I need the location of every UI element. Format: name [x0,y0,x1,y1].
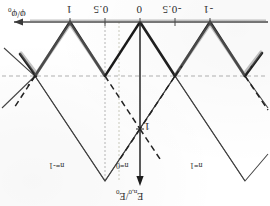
branch-n-zero-center [105,22,140,76]
energy-axis-label-sub2: 0 [116,188,120,196]
x-tick-label-minus-0p5: -0.5 [162,4,181,15]
y-tick-label-1: 1 [144,121,150,132]
vertical-guide-lines [105,22,119,182]
annotation-n-minus-1: n=-1 [49,161,64,169]
energy-axis [136,22,144,186]
x-tick-label-0p5: 0.5 [93,4,108,15]
annotation-n-zero: n=0 [116,161,129,169]
x-tick-label-1: 1 [66,4,72,15]
branch-n-zero-dashed [14,66,268,159]
chart-canvas [0,0,270,206]
flux-axis-label-text: φ/φ [12,9,26,20]
energy-axis-label-mid: /E [120,191,129,202]
energy-axis-label-sub1: n,0 [128,188,137,196]
branch-n-zero-highlight [21,24,261,74]
flux-axis-label-sub: 0 [8,6,12,14]
branch-n-plus-1 [2,76,268,181]
x-tick-label-minus-1: -1 [203,4,213,15]
flux-axis-label: φ/φ0 [8,6,26,19]
x-tick-label-0: 0 [136,4,142,15]
annotation-n-plus-1: n=1 [190,161,203,169]
energy-axis-label: En,0/E0 [116,188,143,201]
branch-n-minus-1 [4,48,268,181]
energy-axis-label-text: E [137,191,143,202]
